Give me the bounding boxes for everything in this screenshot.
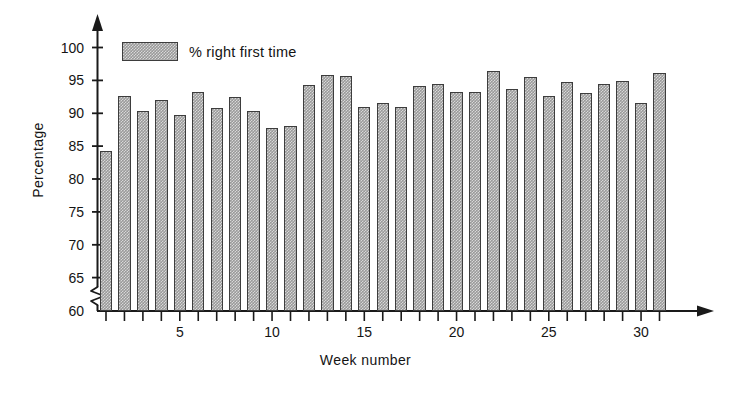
bar xyxy=(616,81,628,311)
bar xyxy=(211,108,223,311)
bar xyxy=(321,75,333,311)
plot-area xyxy=(0,0,731,402)
bar xyxy=(303,85,315,311)
y-axis-title: Percentage xyxy=(30,90,46,230)
bar xyxy=(377,103,389,311)
x-axis-title: Week number xyxy=(0,352,731,368)
bar-chart-figure: 6065707580859095100 51015202530 % right … xyxy=(0,0,731,402)
bar xyxy=(192,92,204,311)
bar xyxy=(506,89,518,311)
bar xyxy=(524,77,536,311)
bar xyxy=(118,96,130,311)
bar xyxy=(100,151,112,311)
bar xyxy=(358,107,370,311)
bar xyxy=(580,93,592,311)
legend-label: % right first time xyxy=(189,44,297,60)
bar xyxy=(229,97,241,311)
chart-legend: % right first time xyxy=(122,42,297,61)
bar xyxy=(469,92,481,311)
bar xyxy=(395,107,407,311)
bar xyxy=(284,126,296,311)
bar xyxy=(247,111,259,311)
bar xyxy=(653,73,665,311)
bar xyxy=(155,100,167,311)
bar xyxy=(543,96,555,311)
bar xyxy=(340,76,352,311)
bar xyxy=(174,115,186,311)
bar xyxy=(413,86,425,311)
bar xyxy=(137,111,149,311)
bar xyxy=(450,92,462,311)
bar xyxy=(561,82,573,311)
bar xyxy=(432,84,444,311)
bar xyxy=(487,71,499,311)
bar xyxy=(598,84,610,311)
legend-swatch-icon xyxy=(122,42,178,61)
bar xyxy=(635,103,647,311)
bar xyxy=(266,128,278,311)
